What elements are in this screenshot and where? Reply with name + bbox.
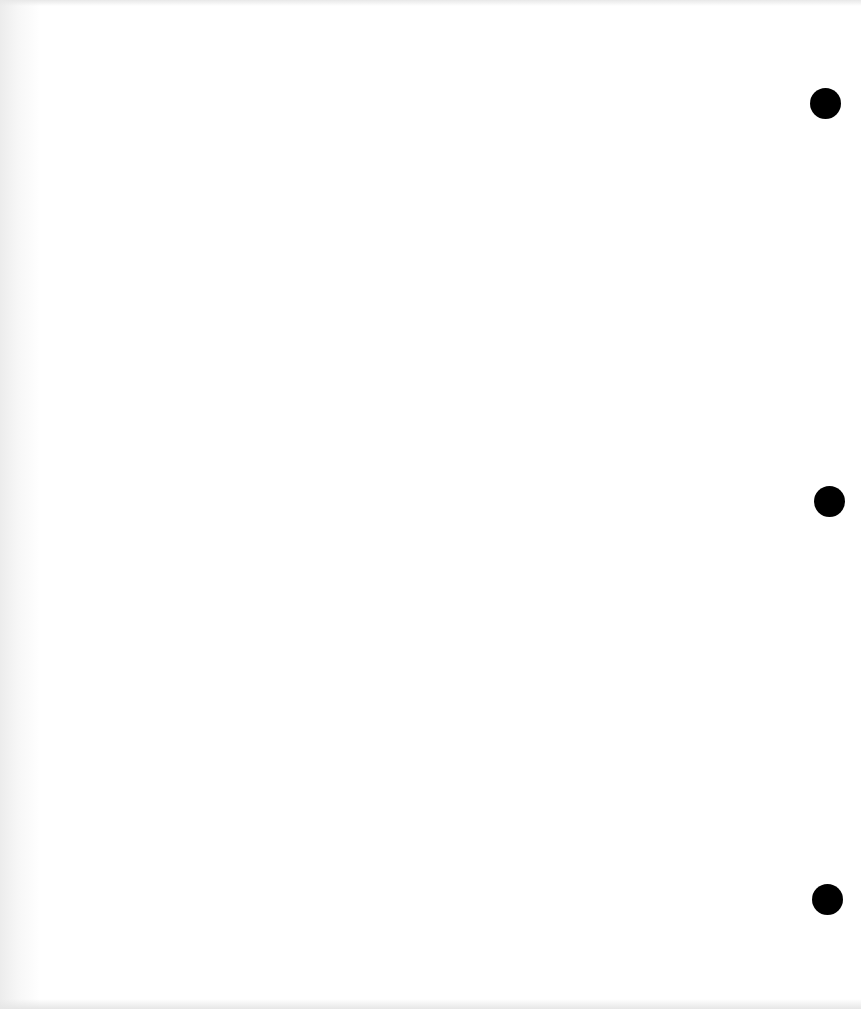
hole-punch-middle — [814, 486, 845, 517]
scanned-page — [0, 0, 861, 1009]
hole-punch-top — [810, 88, 841, 119]
hole-punch-bottom — [812, 884, 843, 915]
page-top-edge — [0, 0, 861, 6]
page-bottom-edge — [0, 999, 861, 1009]
